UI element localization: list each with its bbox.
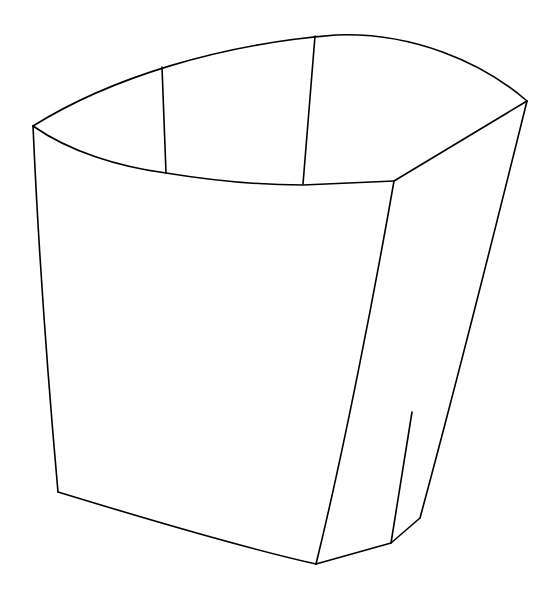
line-drawing-svg <box>0 0 560 598</box>
drawing-canvas: Open Carton Line Drawing french-fry cart… <box>0 0 560 598</box>
